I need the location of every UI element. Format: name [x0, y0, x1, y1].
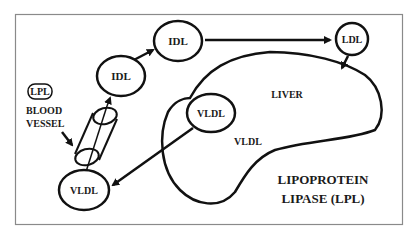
svg-text:IDL: IDL — [111, 70, 131, 82]
svg-text:VLDL: VLDL — [197, 108, 225, 119]
node-ldl: LDL — [336, 23, 368, 55]
arrow-vldl-to-blood — [113, 128, 193, 185]
node-vldl-blood: VLDL — [59, 170, 109, 210]
svg-text:VLDL: VLDL — [70, 185, 98, 196]
svg-text:IDL: IDL — [168, 35, 188, 47]
node-idl-lower: IDL — [97, 56, 145, 96]
lpl-badge: LPL — [28, 84, 52, 99]
liver-label: LIVER — [271, 89, 303, 100]
arrow-vessel-pointer — [62, 132, 72, 145]
node-idl-upper: IDL — [154, 21, 202, 61]
lipoprotein-pathway-diagram: IDL IDL LDL VLDL VLDL LPL BLOOD VESSEL L… — [0, 0, 415, 236]
title-line-1: LIPOPROTEIN — [277, 172, 369, 187]
svg-text:LDL: LDL — [342, 34, 363, 45]
node-vldl-liver: VLDL — [187, 94, 235, 132]
blood-vessel-label-1: BLOOD — [26, 105, 62, 116]
blood-vessel-label-2: VESSEL — [26, 118, 65, 129]
title-line-2: LIPASE (LPL) — [281, 191, 364, 206]
vldl-region-label: VLDL — [234, 136, 262, 147]
svg-text:LPL: LPL — [30, 86, 50, 97]
blood-vessel-cylinder — [73, 98, 118, 178]
